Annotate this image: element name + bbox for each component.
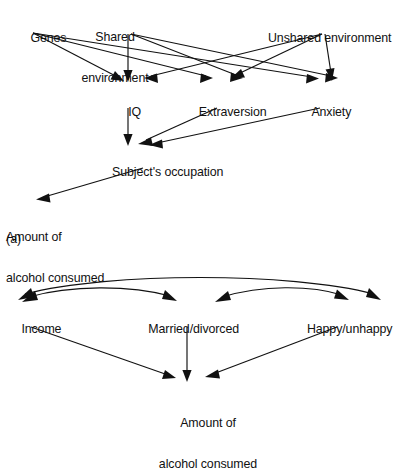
node-anxiety: Anxiety (299, 92, 352, 133)
node-alcohol-a-line2: alcohol consumed (6, 272, 104, 286)
node-amount-of-alcohol-consumed-b: Amount of alcohol consumed (159, 390, 257, 472)
node-alcohol-b-line1: Amount of (159, 417, 257, 431)
node-subjects-occupation: Subject's occupation (99, 152, 224, 193)
node-extraversion: Extraversion (185, 92, 266, 133)
node-happy-unhappy: Happy/unhappy (294, 309, 393, 350)
edge-married-happy-correlation (215, 288, 349, 302)
node-alcohol-b-line2: alcohol consumed (159, 458, 257, 472)
panel-tag-a: (a) (6, 232, 21, 246)
node-married-divorced: Married/divorced (135, 309, 239, 350)
node-iq: IQ (115, 92, 141, 133)
node-unshared-environment: Unshared environment (255, 18, 392, 59)
node-income: Income (8, 309, 61, 350)
node-amount-of-alcohol-consumed-a: Amount of alcohol consumed (6, 204, 104, 313)
node-shared-environment-line2: environment (81, 72, 148, 86)
node-genes: Genes (17, 18, 66, 59)
node-shared-environment-line1: Shared (81, 31, 148, 45)
